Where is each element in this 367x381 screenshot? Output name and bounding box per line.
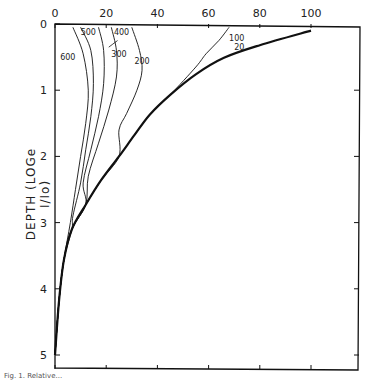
x-tick-label: 80 [253,7,267,20]
curve-200 [55,27,142,355]
x-tick-label: 60 [202,7,216,20]
x-tick-label: 100 [301,7,322,20]
curve-label-400: 400 [114,28,129,37]
x-tick-label: 40 [150,7,164,20]
curve-600 [55,27,88,355]
y-axis-ticks: 012345 [40,18,359,362]
figure-caption: Fig. 1. Relative... [4,372,62,380]
y-tick-label: 0 [40,18,47,31]
curve-label-600: 600 [60,53,75,62]
curve-300 [55,27,117,355]
x-tick-label: 0 [52,7,59,20]
curve-label-100: 100 [229,34,244,43]
curve-label-200: 200 [134,57,149,66]
data-series [55,27,311,355]
y-tick-label: 5 [40,349,47,362]
x-tick-label: 20 [99,7,113,20]
x-axis-ticks: 020406080100 [52,7,322,369]
curve-400 [55,27,104,355]
y-tick-label: 1 [40,84,47,97]
y-tick-label: 4 [40,283,47,296]
curve-label-500: 500 [81,28,96,37]
y-axis-label: DEPTH (LOGe I/Io) [24,134,52,254]
curve-label-300: 300 [111,50,126,59]
axes-box [55,24,360,370]
chart: 020406080100 012345 60050040030020010020 [0,0,367,381]
curve-100 [55,27,229,355]
plot-frame [55,24,360,370]
curve-label-20: 20 [234,43,244,52]
